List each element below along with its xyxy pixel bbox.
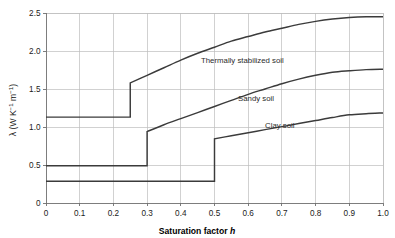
x-tick-label: 0.3 [141,209,153,218]
series-label: Clay soil [265,121,295,130]
x-axis-title: Saturation factor h [159,226,235,236]
x-tick-label: 0.8 [310,209,322,218]
chart-background [0,0,395,238]
y-tick-label: 0 [36,199,41,208]
x-tick-label: 1.0 [377,209,389,218]
x-tick-label: 0.9 [344,209,356,218]
series-label: Thermally stabilized soil [201,56,284,65]
y-tick-label: 1.5 [29,85,41,94]
x-tick-label: 0 [44,209,49,218]
series-label: Sandy soil [238,94,274,103]
x-tick-label: 0.2 [108,209,120,218]
chart-figure: 00.10.20.30.40.50.60.70.80.91.0 00.51.01… [0,0,395,238]
thermal-conductivity-chart: 00.10.20.30.40.50.60.70.80.91.0 00.51.01… [0,0,395,238]
y-tick-label: 2.0 [29,47,41,56]
x-tick-label: 0.1 [74,209,86,218]
y-tick-label: 2.5 [29,9,41,18]
y-tick-label: 0.5 [29,161,41,170]
y-tick-label: 1.0 [29,123,41,132]
x-tick-label: 0.6 [243,209,255,218]
x-tick-label: 0.4 [175,209,187,218]
x-tick-label: 0.5 [209,209,221,218]
x-tick-label: 0.7 [276,209,288,218]
